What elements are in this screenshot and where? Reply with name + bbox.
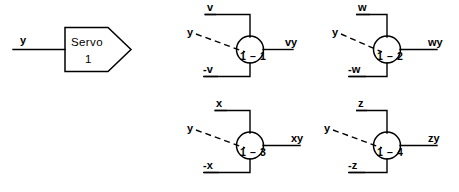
m14-top-wire — [357, 111, 387, 134]
m11-output-label: vy — [285, 36, 298, 48]
m12-output-label: wy — [427, 36, 444, 48]
m13-top-wire — [215, 111, 250, 134]
servo-block-number: 1 — [85, 53, 92, 65]
m12-bottom-input-label: -w — [348, 63, 361, 75]
m11-top-wire — [205, 15, 250, 38]
m11-bottom-input-label: -v — [203, 63, 214, 75]
m13-dashed-input-label: y — [187, 122, 194, 134]
m14-node-label: 1 – 4 — [377, 146, 403, 158]
m13-bottom-input-label: -x — [203, 159, 214, 171]
multiplier-1-4-group: z -z y zy 1 – 4 — [324, 97, 441, 173]
m13-output-label: xy — [291, 132, 304, 144]
multiplier-1-1-group: v -v y vy 1 – 1 — [187, 1, 298, 77]
m14-top-input-label: z — [358, 97, 364, 109]
m11-top-input-label: v — [207, 1, 214, 13]
servo-input-label: y — [20, 34, 27, 46]
circuit-diagram: y Servo 1 v -v y vy 1 – 1 w -w y — [0, 0, 459, 192]
m13-top-input-label: x — [216, 97, 223, 109]
m14-bottom-input-label: -z — [348, 159, 358, 171]
m14-dashed-input-label: y — [324, 122, 331, 134]
multiplier-1-2-group: w -w y wy 1 – 2 — [332, 1, 444, 77]
m12-node-label: 1 – 2 — [377, 50, 403, 62]
multiplier-1-3-group: x -x y xy 1 – 3 — [187, 97, 304, 173]
servo-block-shape — [65, 28, 131, 72]
m12-top-wire — [357, 15, 387, 38]
m13-node-label: 1 – 3 — [240, 146, 266, 158]
m12-top-input-label: w — [357, 1, 367, 13]
servo-block-group: y Servo 1 — [13, 28, 131, 72]
m11-node-label: 1 – 1 — [240, 50, 266, 62]
m12-dashed-input-label: y — [332, 26, 339, 38]
m11-dashed-input-label: y — [187, 26, 194, 38]
m14-output-label: zy — [428, 132, 441, 144]
servo-block-title: Servo — [71, 36, 103, 48]
